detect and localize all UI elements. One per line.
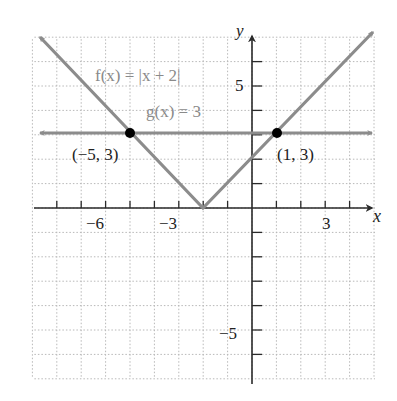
x-axis-label: x (372, 206, 381, 226)
tick-label-y-neg5: −5 (219, 324, 237, 343)
g-function-label: g(x) = 3 (146, 102, 201, 121)
tick-label-x-neg6: −6 (86, 214, 104, 233)
y-axis-label: y (234, 21, 244, 40)
point-neg5-3 (125, 128, 135, 138)
point-label-left: (−5, 3) (72, 145, 118, 164)
tick-label-x-3: 3 (322, 214, 331, 233)
tick-label-x-neg3: −3 (159, 214, 177, 233)
f-function-label: f(x) = |x + 2| (95, 66, 180, 85)
coordinate-plane: y x −6 −3 3 5 −5 f(x) = |x + 2| g(x) = 3… (0, 0, 397, 401)
tick-label-y-5: 5 (235, 76, 244, 95)
f-curve (40, 32, 373, 208)
point-label-right: (1, 3) (277, 145, 314, 164)
point-1-3 (272, 128, 282, 138)
